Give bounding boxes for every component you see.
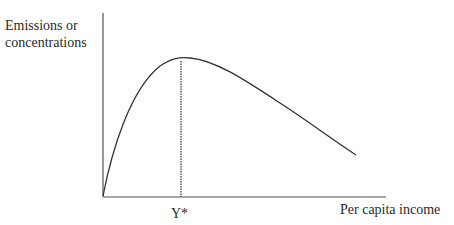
x-axis-label: Per capita income	[340, 201, 440, 218]
emissions-curve	[103, 58, 356, 196]
y-axis-label-line2: concentrations	[5, 34, 87, 51]
ekc-diagram: Emissions or concentrations Y* Per capit…	[0, 0, 454, 225]
turning-point-label: Y*	[171, 205, 188, 222]
y-axis-label-line1: Emissions or	[5, 17, 78, 34]
